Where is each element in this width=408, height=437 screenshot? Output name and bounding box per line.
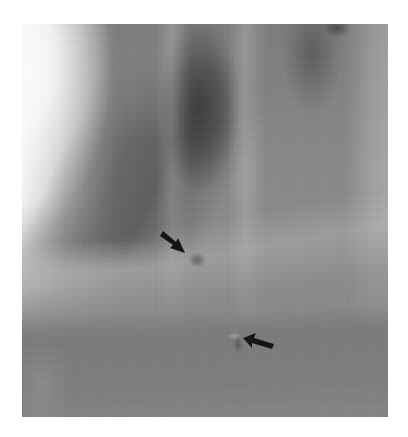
arrow-icon-1 [160,231,185,253]
arrow-icon-2 [243,333,274,349]
annotation-arrows [0,0,408,437]
